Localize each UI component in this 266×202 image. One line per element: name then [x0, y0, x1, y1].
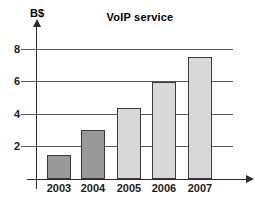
x-tick-label: 2003	[42, 182, 76, 194]
bar-2003	[47, 155, 71, 179]
x-tick-label: 2005	[112, 182, 146, 194]
x-axis	[27, 179, 246, 180]
x-tick-label: 2006	[147, 182, 181, 194]
bar-2004	[81, 130, 105, 179]
x-axis-arrow-icon	[246, 175, 254, 183]
gridline-8	[21, 49, 233, 50]
bar-2006	[152, 82, 176, 180]
y-tick-label: 6	[6, 75, 20, 87]
y-tick-label: 4	[6, 108, 20, 120]
x-tick-label: 2007	[183, 182, 217, 194]
plot-area: 246820032004200520062007	[0, 0, 266, 202]
chart-container: VoIP service B$ 246820032004200520062007	[0, 0, 266, 202]
y-tick-label: 2	[6, 140, 20, 152]
bar-2005	[117, 108, 141, 180]
y-tick-label: 8	[6, 43, 20, 55]
y-axis	[36, 26, 37, 189]
y-axis-arrow-icon	[33, 19, 41, 27]
x-tick-label: 2004	[76, 182, 110, 194]
bar-2007	[188, 57, 212, 179]
